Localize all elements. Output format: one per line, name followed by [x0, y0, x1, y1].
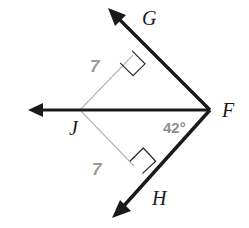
vertex-label-j: J — [69, 117, 79, 139]
length-label-jh: 7 — [92, 160, 103, 179]
angle-label-f: 42° — [163, 119, 186, 136]
vertex-label-h: H — [151, 187, 168, 209]
length-label-jg: 7 — [90, 57, 101, 76]
vertex-label-f: F — [221, 99, 235, 121]
geometry-diagram-canvas: G F J H 7 7 42° — [0, 0, 249, 228]
vertex-label-g: G — [142, 7, 157, 29]
geometry-figure: G F J H 7 7 42° — [0, 0, 249, 228]
